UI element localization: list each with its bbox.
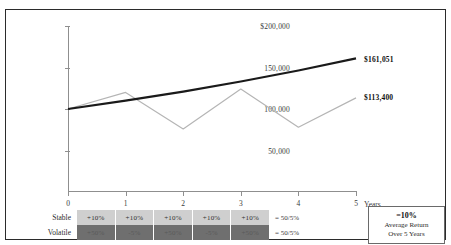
x-tick-label: 3	[239, 199, 243, 208]
x-tick-label: 5	[354, 199, 358, 208]
volatile-series-line	[68, 89, 356, 129]
table-cell: +10%	[77, 210, 116, 225]
callout-line1: Average Return	[385, 221, 429, 230]
table-cell: +10%	[154, 210, 193, 225]
stable-series-line	[68, 58, 356, 109]
table-row: Volatile +50% -5% +50% -5% +50% = 50/5%	[37, 225, 323, 240]
chart-page: $200,000 150,000 100,000 50,000 0 1 2 3 …	[0, 0, 451, 245]
stable-end-label: $161,051	[364, 55, 394, 64]
rates-table: Stable +10% +10% +10% +10% +10% = 50/5% …	[37, 210, 323, 240]
top-stub-text	[6, 0, 126, 9]
row-cells-stable: +10% +10% +10% +10% +10%	[77, 210, 269, 225]
x-tick-label: 0	[66, 199, 70, 208]
table-row: Stable +10% +10% +10% +10% +10% = 50/5%	[37, 210, 323, 225]
volatile-end-label: $113,400	[364, 93, 393, 102]
plot-area: $200,000 150,000 100,000 50,000 0 1 2 3 …	[68, 26, 356, 192]
average-return-callout: =10% Average Return Over 5 Years	[368, 206, 445, 244]
x-tick-label: 1	[124, 199, 128, 208]
callout-headline: =10%	[396, 211, 417, 221]
table-cell: +50%	[231, 225, 269, 240]
table-cell: -5%	[116, 225, 155, 240]
row-label-stable: Stable	[37, 210, 77, 225]
table-cell: -5%	[193, 225, 232, 240]
row-cells-volatile: +50% -5% +50% -5% +50%	[77, 225, 269, 240]
table-cell: +50%	[154, 225, 193, 240]
row-label-volatile: Volatile	[37, 225, 77, 240]
series-lines	[68, 26, 356, 192]
table-cell: +10%	[193, 210, 232, 225]
x-tick-label: 2	[181, 199, 185, 208]
row-legend-stable: = 50/5%	[269, 210, 323, 225]
table-cell: +50%	[77, 225, 116, 240]
callout-line2: Over 5 Years	[388, 230, 424, 239]
table-cell: +10%	[231, 210, 269, 225]
table-cell: +10%	[116, 210, 155, 225]
x-tick	[356, 191, 357, 196]
x-tick-label: 4	[297, 199, 301, 208]
row-legend-volatile: = 50/5%	[269, 225, 323, 240]
chart-frame: $200,000 150,000 100,000 50,000 0 1 2 3 …	[5, 9, 446, 240]
